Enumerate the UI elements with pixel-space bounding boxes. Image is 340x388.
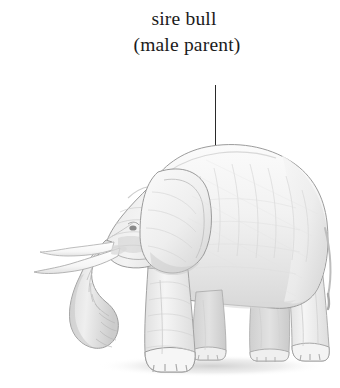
elephant-illustration xyxy=(0,0,340,388)
front-leg-far xyxy=(192,290,226,360)
ear xyxy=(140,169,211,275)
eye xyxy=(129,225,136,230)
figure-canvas: sire bull (male parent) xyxy=(0,0,340,388)
tusks xyxy=(34,242,127,274)
front-leg-near xyxy=(145,268,195,372)
